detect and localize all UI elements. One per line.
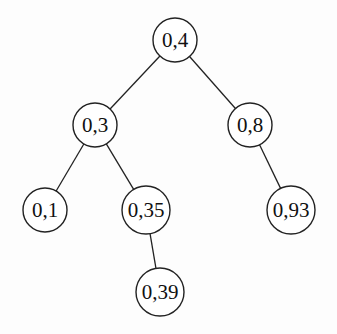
tree-node: 0,93 [267,186,315,234]
edge-n03-n035 [106,144,133,190]
tree-node: 0,8 [228,103,272,147]
node-label: 0,1 [32,198,58,222]
node-label: 0,4 [162,28,189,52]
edge-n03-n01 [56,144,84,191]
edge-n08-n093 [260,145,281,189]
edge-n035-n039 [150,234,156,269]
tree-node: 0,1 [23,188,67,232]
node-label: 0,35 [128,198,165,222]
tree-svg: 0,40,30,80,10,350,930,39 [0,0,337,334]
node-label: 0,3 [82,113,108,137]
edges-group [56,56,280,268]
nodes-group: 0,40,30,80,10,350,930,39 [23,18,315,316]
tree-diagram: 0,40,30,80,10,350,930,39 [0,0,337,334]
tree-node: 0,4 [153,18,197,62]
node-label: 0,8 [237,113,263,137]
node-label: 0,39 [142,280,179,304]
edge-n04-n03 [110,56,160,109]
node-label: 0,93 [273,198,310,222]
tree-node: 0,3 [73,103,117,147]
tree-node: 0,39 [136,268,184,316]
edge-n04-n08 [190,56,236,108]
tree-node: 0,35 [122,186,170,234]
